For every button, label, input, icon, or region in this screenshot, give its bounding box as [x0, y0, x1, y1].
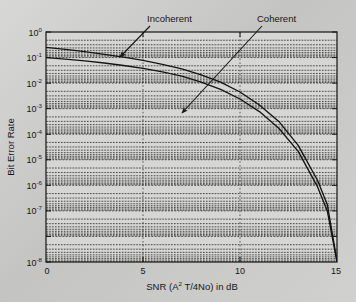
- x-axis-label-suffix: T/4No) in dB: [182, 281, 238, 292]
- x-axis-label: SNR (A2 T/4No) in dB: [146, 280, 237, 292]
- y-tick-mantissa-6: 10: [26, 181, 36, 191]
- y-tick-exponent-1: -1: [36, 51, 42, 58]
- svg-text:10-3: 10-3: [26, 102, 42, 114]
- ber-vs-snr-chart: 100 10-1 10-2 10-3 10-4 10-5 10-6 10-7: [0, 0, 356, 302]
- y-tick-exponent-8: -8: [36, 256, 42, 263]
- x-axis-label-prefix: SNR (A: [146, 281, 179, 292]
- y-tick-mantissa-5: 10: [26, 155, 36, 165]
- svg-text:10-5: 10-5: [26, 153, 42, 165]
- y-tick-exponent-4: -4: [36, 128, 42, 135]
- y-tick-mantissa-1: 10: [26, 53, 36, 63]
- y-tick-exponent-6: -6: [36, 179, 42, 186]
- y-tick-mantissa-2: 10: [26, 79, 36, 89]
- y-tick-mantissa-4: 10: [26, 130, 36, 140]
- svg-text:10-2: 10-2: [26, 77, 42, 89]
- y-axis-label: Bit Error Rate: [5, 118, 16, 176]
- y-tick-mantissa-7: 10: [26, 206, 36, 216]
- svg-text:10-1: 10-1: [26, 51, 42, 63]
- svg-text:100: 100: [29, 26, 43, 38]
- y-tick-exponent-3: -3: [36, 102, 42, 109]
- svg-text:10-8: 10-8: [26, 256, 42, 268]
- annotation-coherent-label: Coherent: [257, 13, 296, 24]
- y-tick-mantissa-8: 10: [26, 258, 36, 268]
- y-tick-mantissa-0: 10: [29, 28, 39, 38]
- svg-text:10-7: 10-7: [26, 204, 42, 216]
- svg-text:10-6: 10-6: [26, 179, 42, 191]
- y-tick-labels: 100 10-1 10-2 10-3 10-4 10-5 10-6 10-7: [26, 26, 42, 268]
- chart-figure: 100 10-1 10-2 10-3 10-4 10-5 10-6 10-7: [0, 0, 356, 302]
- x-tick-label-2: 10: [235, 266, 245, 276]
- x-tick-label-1: 5: [140, 266, 145, 276]
- svg-text:10-4: 10-4: [26, 128, 42, 140]
- x-tick-label-0: 0: [44, 266, 49, 276]
- x-tick-labels: 0 5 10 15: [44, 266, 341, 276]
- y-tick-mantissa-3: 10: [26, 104, 36, 114]
- x-tick-label-3: 15: [331, 266, 341, 276]
- y-tick-exponent-2: -2: [36, 77, 42, 84]
- y-tick-exponent-5: -5: [36, 153, 42, 160]
- annotation-incoherent-label: Incoherent: [147, 13, 192, 24]
- y-tick-exponent-7: -7: [36, 204, 42, 211]
- y-tick-exponent-0: 0: [39, 26, 43, 33]
